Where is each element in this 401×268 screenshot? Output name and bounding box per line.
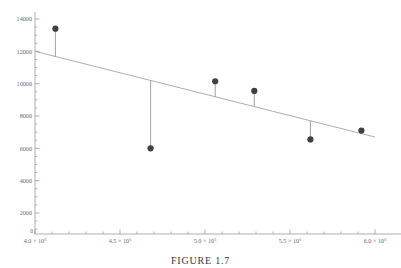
data-point-marker[interactable] — [307, 136, 313, 142]
y-axis-tick-label: 4000 — [20, 177, 32, 184]
data-point-marker[interactable] — [52, 26, 58, 32]
x-axis-tick-label: 5.5 × 10⁶ — [279, 237, 302, 244]
x-axis-tick-label: 5.0 × 10⁶ — [194, 237, 217, 244]
y-axis-tick-label: 6000 — [20, 145, 32, 152]
x-axis-tick-label: 4.0 × 10⁶ — [24, 237, 47, 244]
data-point-marker[interactable] — [148, 145, 154, 151]
scatter-plot: 4.0 × 10⁶4.5 × 10⁶5.0 × 10⁶5.5 × 10⁶6.0 … — [0, 0, 401, 268]
x-axis-tick-label: 4.5 × 10⁶ — [109, 237, 132, 244]
y-axis-tick-label: 2000 — [20, 209, 32, 216]
data-point-marker[interactable] — [212, 78, 218, 84]
y-axis-tick-label: 14000 — [17, 15, 32, 22]
data-point-marker[interactable] — [358, 127, 364, 133]
figure-caption: FIGURE 1.7 — [0, 255, 401, 266]
x-axis-tick-label: 6.0 × 10⁶ — [364, 237, 387, 244]
origin-label: 0 — [30, 228, 33, 234]
data-point-marker[interactable] — [251, 88, 257, 94]
y-axis-tick-label: 10000 — [17, 80, 32, 87]
figure-container: 4.0 × 10⁶4.5 × 10⁶5.0 × 10⁶5.5 × 10⁶6.0 … — [0, 0, 401, 268]
fitted-line — [35, 51, 375, 137]
y-axis-tick-label: 12000 — [17, 48, 32, 55]
y-axis-tick-label: 8000 — [20, 112, 32, 119]
